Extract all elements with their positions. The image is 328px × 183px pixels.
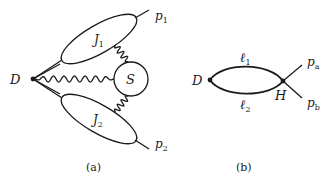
l1-label: ℓ1: [240, 50, 251, 67]
vertex-h-label: H: [274, 88, 287, 103]
soft-label: S: [126, 72, 135, 87]
caption-a: (a): [86, 161, 101, 174]
soft-gluon-line-main: [35, 76, 114, 82]
panel-b: D H ℓ1 ℓ2 pa pb (b): [191, 50, 320, 174]
jet1-label: J1: [91, 33, 104, 49]
pa-line: [283, 65, 302, 81]
l2-label: ℓ2: [240, 97, 251, 114]
vertex-h-dot: [281, 79, 286, 84]
vertex-d-label: D: [9, 72, 21, 87]
feynman-diagrams: D S J1 J2 p1 p2 (a) D H ℓ1 ℓ2 pa pb (b): [0, 0, 328, 183]
pa-label: pa: [307, 55, 320, 71]
soft-gluon-line-jet2: [115, 96, 128, 112]
p1-label: p1: [155, 9, 168, 25]
pb-label: pb: [307, 96, 320, 112]
caption-b: (b): [236, 161, 252, 174]
vertex-d-dot-b: [208, 78, 213, 83]
soft-gluon-line-jet1: [115, 45, 128, 62]
p1-line: [135, 10, 149, 18]
line-l2: [210, 80, 283, 94]
line-l1: [210, 67, 283, 81]
p2-line: [135, 140, 149, 149]
panel-a: D S J1 J2 p1 p2 (a): [9, 5, 168, 174]
p2-label: p2: [155, 137, 168, 153]
jet1-collinear-line-lower: [33, 64, 60, 79]
vertex-d-dot: [31, 77, 36, 82]
jet2-label: J2: [90, 113, 103, 129]
vertex-d-label-b: D: [191, 73, 203, 88]
